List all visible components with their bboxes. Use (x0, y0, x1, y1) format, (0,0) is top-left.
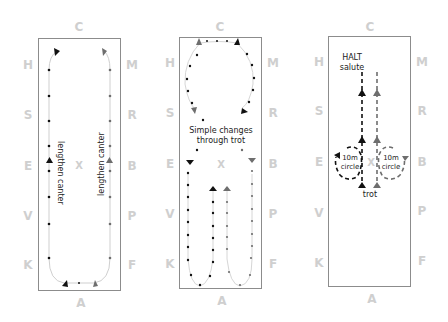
trot-label: trot (358, 190, 382, 200)
halt-label: HALT (334, 53, 370, 63)
left-circle-label: 10m circle (338, 154, 362, 172)
halt-salute-label: HALT salute (334, 53, 370, 73)
circle-word: circle (379, 163, 403, 172)
circle-size: 10m (379, 154, 403, 163)
salute-label: salute (334, 63, 370, 73)
circle-word: circle (338, 163, 362, 172)
right-circle-label: 10m circle (379, 154, 403, 172)
circle-size: 10m (338, 154, 362, 163)
